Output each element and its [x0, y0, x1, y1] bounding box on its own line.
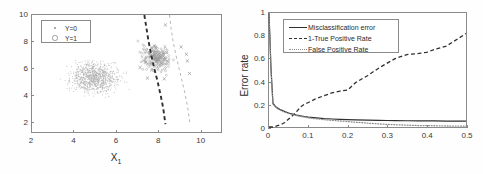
- scatter-plot-panel: 246810 246810 X1 Y=0 Y=1: [0, 0, 241, 174]
- error-rate-x-tick-label: 0.1: [302, 131, 313, 140]
- legend-item-y1-label: Y=1: [65, 35, 77, 42]
- scatter-x-axis-label-subscript: 1: [117, 158, 121, 165]
- error-rate-x-tick-label: 0.2: [342, 131, 353, 140]
- error-rate-y-tickmark: [268, 35, 271, 36]
- error-rate-x-tick-label: 0: [266, 131, 270, 140]
- scatter-x-tickmark: [73, 130, 74, 133]
- legend-item-fpr: False Positive Rate: [288, 44, 394, 55]
- error-rate-y-tickmark: [268, 105, 271, 106]
- scatter-x-tick-label: 6: [114, 136, 118, 145]
- error-rate-x-tickmark: [427, 125, 428, 128]
- scatter-x-tick-label: 8: [156, 136, 160, 145]
- scatter-y-tick-label: 2: [9, 118, 28, 127]
- dashed-line-icon: [288, 34, 308, 44]
- scatter-y-tickmark: [31, 95, 34, 96]
- legend-item-misclassification: Misclassification error: [288, 22, 394, 33]
- figure-container: 246810 246810 X1 Y=0 Y=1 00.10.20.30.40.…: [0, 0, 483, 174]
- legend-item-y0-label: Y=0: [65, 25, 77, 32]
- legend-item-fpr-label: False Positive Rate: [308, 46, 368, 53]
- scatter-y-tick-label: 4: [9, 91, 28, 100]
- error-rate-legend: Misclassification error 1-True Positive …: [283, 19, 399, 53]
- scatter-x-tickmark: [158, 130, 159, 133]
- legend-item-tpr-label: 1-True Positive Rate: [308, 35, 372, 42]
- legend-item-y0: Y=0: [45, 23, 87, 33]
- dotted-line-icon: [288, 45, 308, 55]
- legend-item-y1: Y=1: [45, 33, 87, 43]
- scatter-x-tickmark: [116, 130, 117, 133]
- scatter-x-axis-label: X1: [111, 152, 122, 165]
- error-rate-y-tickmark: [268, 58, 271, 59]
- error-rate-y-tick-label: 0.2: [246, 100, 265, 109]
- error-rate-x-tickmark: [308, 125, 309, 128]
- circle-marker-icon: [45, 33, 65, 43]
- solid-line-icon: [288, 23, 308, 33]
- error-rate-x-tick-label: 0.3: [382, 131, 393, 140]
- legend-item-misclassification-label: Misclassification error: [308, 24, 375, 31]
- error-rate-x-tick-label: 0.4: [422, 131, 433, 140]
- scatter-x-axis-label-text: X: [111, 152, 118, 163]
- scatter-y-tickmark: [31, 68, 34, 69]
- scatter-y-tickmark: [31, 41, 34, 42]
- scatter-y-tickmark: [31, 122, 34, 123]
- light-decision-boundary: [170, 15, 190, 124]
- error-rate-x-tickmark: [348, 125, 349, 128]
- dot-marker-icon: [45, 23, 65, 33]
- error-rate-x-tickmark: [467, 125, 468, 128]
- scatter-y-tick-label: 6: [9, 64, 28, 73]
- error-rate-x-tick-label: 0.5: [461, 131, 472, 140]
- error-rate-y-tick-label: 0.8: [246, 31, 265, 40]
- scatter-x-tick-label: 4: [71, 136, 75, 145]
- scatter-x-tickmark: [201, 130, 202, 133]
- scatter-y-tickmark: [31, 14, 34, 15]
- error-rate-y-tick-label: 0: [246, 124, 265, 133]
- scatter-y-tick-label: 10: [9, 10, 28, 19]
- legend-item-tpr: 1-True Positive Rate: [288, 33, 394, 44]
- scatter-series-y0: [60, 60, 130, 98]
- scatter-legend: Y=0 Y=1: [41, 20, 91, 43]
- error-rate-y-tickmark: [268, 128, 271, 129]
- error-rate-y-tickmark: [268, 82, 271, 83]
- scatter-x-tick-label: 2: [29, 136, 33, 145]
- error-rate-x-tickmark: [387, 125, 388, 128]
- scatter-x-tickmark: [31, 130, 32, 133]
- scatter-y-tick-label: 8: [9, 37, 28, 46]
- error-rate-y-tickmark: [268, 12, 271, 13]
- scatter-x-tick-label: 10: [196, 136, 205, 145]
- error-rate-y-axis-label: Error rate: [239, 54, 250, 96]
- error-rate-y-tick-label: 1: [246, 8, 265, 17]
- error-rate-plot-panel: 00.10.20.30.40.5 00.20.40.60.81 Threshol…: [241, 0, 483, 174]
